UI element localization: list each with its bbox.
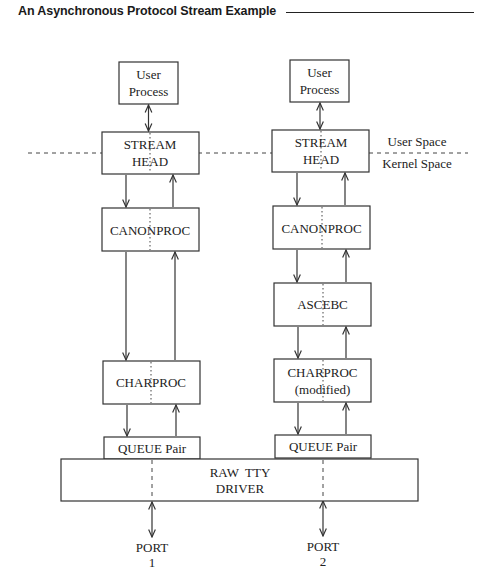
svg-text:PORT: PORT [136, 540, 169, 555]
port-1-label: PORT 1 [136, 540, 169, 570]
svg-text:HEAD: HEAD [132, 154, 168, 169]
user-space-label: User Space [388, 134, 447, 149]
space-divider: User Space Kernel Space [28, 134, 468, 171]
charproc-box-1: CHARPROC [103, 361, 200, 404]
svg-text:HEAD: HEAD [303, 152, 339, 167]
stream-head-box-1: STREAM HEAD [102, 132, 199, 174]
svg-text:Process: Process [300, 82, 340, 97]
raw-tty-driver-box: RAW TTY DRIVER [61, 459, 418, 501]
svg-text:QUEUE Pair: QUEUE Pair [289, 439, 358, 454]
svg-text:ASCEBC: ASCEBC [297, 297, 348, 312]
svg-text:STREAM: STREAM [124, 137, 177, 152]
svg-text:(modified): (modified) [295, 382, 351, 397]
canonproc-box-2: CANONPROC [273, 206, 370, 249]
svg-text:STREAM: STREAM [295, 135, 348, 150]
svg-text:CANONPROC: CANONPROC [110, 223, 190, 238]
svg-text:Process: Process [129, 84, 169, 99]
svg-text:User: User [136, 67, 161, 82]
kernel-space-label: Kernel Space [382, 156, 452, 171]
user-process-box-1: User Process [119, 62, 178, 104]
svg-text:CHARPROC: CHARPROC [287, 365, 357, 380]
svg-text:RAW TTY: RAW TTY [210, 465, 271, 480]
svg-text:1: 1 [149, 555, 156, 570]
svg-text:DRIVER: DRIVER [216, 481, 265, 496]
port-2-label: PORT 2 [307, 539, 340, 569]
svg-text:User: User [307, 65, 332, 80]
canonproc-box-1: CANONPROC [102, 208, 199, 251]
user-process-box-2: User Process [290, 60, 349, 102]
queue-pair-box-1: QUEUE Pair [104, 437, 200, 459]
ascebc-box: ASCEBC [274, 283, 371, 326]
stream-head-box-2: STREAM HEAD [272, 130, 369, 172]
svg-text:2: 2 [320, 554, 327, 569]
queue-pair-box-2: QUEUE Pair [275, 435, 371, 458]
charproc-modified-box: CHARPROC (modified) [274, 359, 371, 402]
svg-text:CANONPROC: CANONPROC [281, 221, 361, 236]
svg-text:PORT: PORT [307, 539, 340, 554]
stream-diagram: User Space Kernel Space User Process STR… [0, 0, 488, 587]
svg-text:CHARPROC: CHARPROC [116, 375, 186, 390]
svg-text:QUEUE Pair: QUEUE Pair [118, 441, 187, 456]
